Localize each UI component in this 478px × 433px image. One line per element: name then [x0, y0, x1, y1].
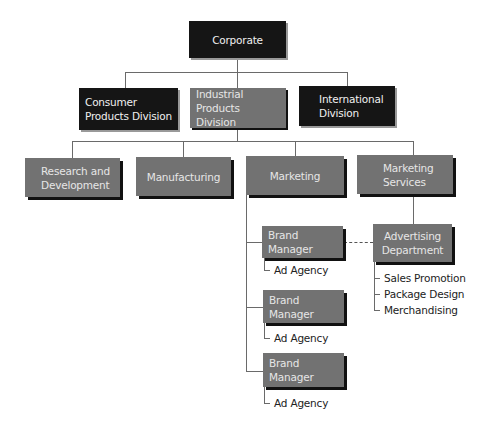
ad-agency-label: Ad Agency: [274, 397, 328, 409]
connector: [264, 338, 270, 339]
node-label: Brand Manager: [269, 293, 338, 321]
package-design-label: Package Design: [384, 288, 464, 300]
connector: [413, 194, 414, 224]
connector: [72, 141, 73, 158]
connector: [374, 278, 380, 279]
node-label: Marketing: [270, 169, 321, 183]
node-label: Brand Manager: [268, 228, 337, 256]
node-marketing-services: Marketing Services: [357, 155, 453, 194]
node-marketing: Marketing: [246, 156, 344, 195]
connector: [264, 270, 270, 271]
node-label: Brand Manager: [269, 356, 338, 384]
connector: [264, 403, 270, 404]
connector: [264, 258, 265, 270]
node-brand-manager: Brand Manager: [263, 353, 344, 387]
connector: [237, 58, 238, 88]
node-advertising-department: Advertising Department: [373, 224, 452, 262]
node-label: Corporate: [212, 33, 263, 47]
connector: [125, 72, 126, 88]
dotted-relationship-line: [344, 242, 373, 243]
connector: [246, 195, 247, 372]
node-label: Manufacturing: [147, 170, 220, 184]
connector: [374, 310, 380, 311]
node-manufacturing: Manufacturing: [136, 157, 231, 196]
connector: [246, 307, 263, 308]
node-label: Industrial Products Division: [196, 87, 280, 129]
connector: [264, 323, 265, 338]
connector: [246, 242, 263, 243]
node-brand-manager: Brand Manager: [262, 226, 343, 258]
connector: [295, 141, 296, 156]
node-label: International Division: [319, 92, 389, 120]
node-label: Marketing Services: [383, 161, 447, 189]
node-industrial-products-division: Industrial Products Division: [190, 88, 286, 128]
connector: [183, 141, 184, 157]
connector: [374, 262, 375, 310]
ad-agency-label: Ad Agency: [274, 332, 328, 344]
connector: [264, 387, 265, 403]
node-label: Advertising Department: [379, 229, 446, 257]
node-label: Research and Development: [41, 164, 114, 192]
node-brand-manager: Brand Manager: [263, 290, 344, 323]
connector: [72, 141, 414, 142]
connector: [237, 128, 238, 141]
node-international-division: International Division: [299, 86, 395, 126]
node-label: Consumer Products Division: [85, 95, 172, 123]
node-consumer-products-division: Consumer Products Division: [79, 88, 178, 130]
connector: [347, 72, 348, 86]
connector: [246, 371, 263, 372]
connector: [125, 72, 348, 73]
connector: [374, 294, 380, 295]
connector: [413, 141, 414, 155]
node-research-and-development: Research and Development: [25, 158, 120, 197]
node-corporate: Corporate: [189, 21, 286, 58]
merchandising-label: Merchandising: [384, 304, 458, 316]
ad-agency-label: Ad Agency: [274, 264, 328, 276]
sales-promotion-label: Sales Promotion: [384, 272, 466, 284]
